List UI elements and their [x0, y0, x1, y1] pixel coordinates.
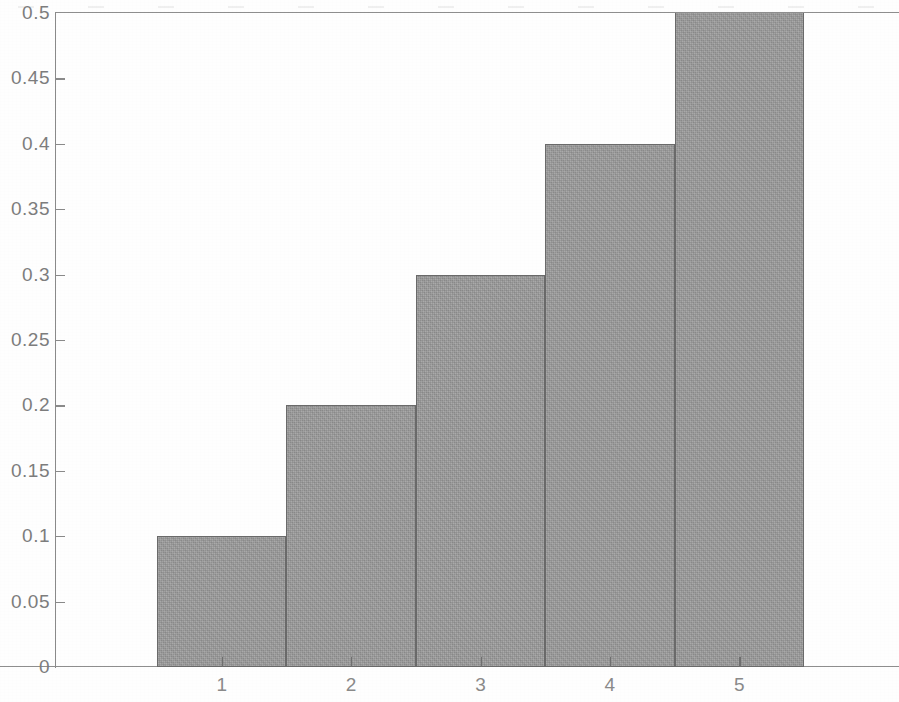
y-axis-tick-label: 0.15 [0, 460, 50, 482]
y-axis-tick-label: 0.4 [0, 133, 50, 155]
x-axis-tick [481, 657, 482, 667]
bar-chart-figure: 0.50.450.40.350.30.250.20.150.10.050 123… [0, 0, 899, 702]
y-axis-tick [56, 78, 65, 79]
scan-artifact-streak [0, 6, 899, 8]
y-axis-tick [56, 471, 65, 472]
y-axis-tick [56, 602, 65, 603]
y-axis-tick [56, 405, 65, 406]
y-axis-tick-label: 0.25 [0, 329, 50, 351]
y-axis-tick [56, 340, 65, 341]
x-axis-tick-label: 2 [346, 674, 357, 696]
x-axis-tick [351, 657, 352, 667]
x-axis-tick [222, 657, 223, 667]
bar [675, 13, 804, 667]
y-axis-tick-label: 0.05 [0, 591, 50, 613]
bar [545, 144, 674, 667]
y-axis-tick-label: 0.1 [0, 525, 50, 547]
y-axis-tick-label: 0.35 [0, 198, 50, 220]
y-axis-tick-label: 0.45 [0, 67, 50, 89]
y-axis-tick [56, 275, 65, 276]
y-axis-tick-label: 0.3 [0, 264, 50, 286]
x-axis-tick-label: 1 [216, 674, 227, 696]
plot-area [55, 13, 899, 667]
y-axis-tick-label: 0.2 [0, 394, 50, 416]
y-axis-tick-label: 0 [0, 656, 50, 678]
y-axis-tick [56, 536, 65, 537]
y-axis-tick [56, 144, 65, 145]
y-axis-tick [56, 209, 65, 210]
x-axis-tick-label: 3 [475, 674, 486, 696]
x-axis-tick-label: 4 [605, 674, 616, 696]
bar [416, 275, 545, 667]
x-axis-tick [739, 657, 740, 667]
y-axis-tick-labels: 0.50.450.40.350.30.250.20.150.10.050 [0, 0, 50, 702]
x-axis-tick [610, 657, 611, 667]
bar [157, 536, 286, 667]
bar [286, 405, 415, 667]
x-axis-tick-label: 5 [734, 674, 745, 696]
